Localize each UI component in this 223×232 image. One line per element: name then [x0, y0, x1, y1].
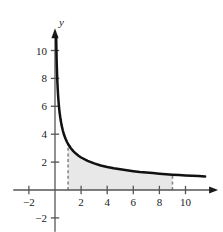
y-tick-label: 8: [42, 72, 48, 84]
y-tick-label: 6: [42, 100, 48, 112]
graph-plot: −2246810−2246810 y: [0, 0, 223, 232]
x-tick-label: 10: [180, 196, 192, 208]
y-tick-label: −2: [35, 212, 47, 224]
x-tick-label: 2: [78, 196, 84, 208]
y-tick-label: 4: [42, 128, 48, 140]
axis-name-label: y: [58, 16, 64, 28]
y-tick-label: 2: [42, 156, 48, 168]
y-tick-label: 10: [36, 45, 48, 57]
figure-container: −2246810−2246810 y: [0, 0, 223, 232]
x-tick-label: 6: [131, 196, 137, 208]
x-tick-label: −2: [23, 196, 35, 208]
x-tick-label: 4: [104, 196, 110, 208]
y-axis-name: y: [58, 16, 64, 28]
x-tick-label: 8: [157, 196, 163, 208]
